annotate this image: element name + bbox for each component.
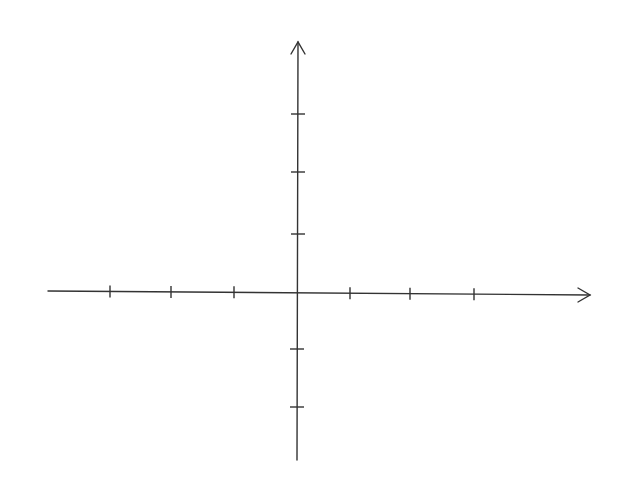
tick-marks <box>110 114 474 407</box>
x-axis <box>48 291 590 295</box>
y-axis <box>297 42 298 460</box>
coordinate-plane <box>0 0 634 484</box>
